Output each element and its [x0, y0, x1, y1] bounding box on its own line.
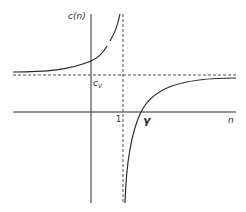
- curve-right-branch: [125, 78, 236, 203]
- cv-label: cV: [93, 78, 103, 89]
- curve-left-branch-upper: [110, 14, 120, 41]
- curve-left-branch-lower: [13, 46, 107, 72]
- y-axis-label: c(n): [68, 11, 86, 21]
- x-axis-label: n: [228, 115, 234, 125]
- gamma-label: γ: [143, 114, 152, 127]
- c-of-n-diagram: c(n) n cV 1 γ: [0, 0, 246, 212]
- cv-label-sub: V: [98, 82, 103, 89]
- tick-label-one: 1: [116, 115, 121, 124]
